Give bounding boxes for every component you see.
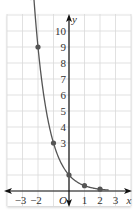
y-tick-label: 5 [61,105,67,117]
y-tick-label: 9 [61,41,67,53]
x-tick-label: −3 [15,194,27,206]
x-tick-label: −2 [30,194,42,206]
y-tick-label: 10 [55,25,67,37]
origin-label: O [59,194,67,206]
y-tick-label: 6 [61,89,67,101]
exponential-chart: 345678910−3−2123Oxy [0,0,136,213]
y-tick-label: 7 [61,73,67,85]
y-axis-label: y [71,13,77,25]
x-tick-label: 1 [82,194,88,206]
data-point [66,172,71,177]
data-point [82,183,87,188]
data-point [35,44,40,49]
data-point [97,187,102,192]
x-tick-label: 2 [97,194,103,206]
x-axis-label: x [126,194,132,206]
y-tick-label: 3 [61,137,67,149]
x-tick-label: 3 [113,194,119,206]
data-point [51,140,56,145]
y-tick-label: 4 [61,121,67,133]
y-tick-label: 8 [61,57,67,69]
